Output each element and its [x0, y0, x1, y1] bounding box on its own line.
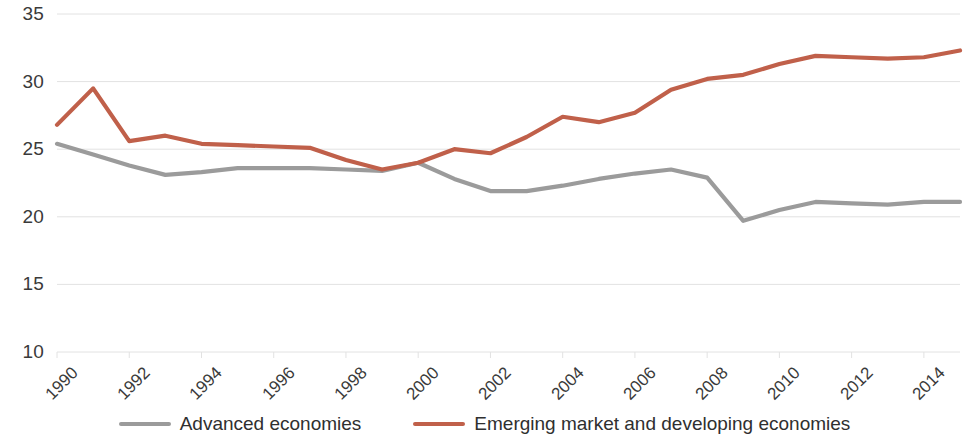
y-axis-tick-label: 10 [4, 342, 44, 361]
line-chart: 101520253035 199019921994199619982000200… [0, 0, 969, 441]
legend-label: Advanced economies [180, 413, 362, 435]
chart-legend: Advanced economiesEmerging market and de… [0, 406, 969, 441]
gridlines [57, 14, 960, 352]
y-axis-tick-label: 20 [4, 207, 44, 226]
y-axis-tick-label: 35 [4, 4, 44, 23]
series-line [57, 51, 960, 170]
legend-item[interactable]: Advanced economies [119, 413, 362, 435]
x-axis-ticks [57, 352, 924, 358]
legend-line-swatch [119, 422, 171, 426]
y-axis-tick-label: 25 [4, 139, 44, 158]
y-axis-labels: 101520253035 [0, 0, 44, 441]
legend-line-swatch [413, 422, 465, 426]
chart-canvas [0, 0, 969, 441]
series-line [57, 144, 960, 221]
legend-label: Emerging market and developing economies [474, 413, 850, 435]
y-axis-tick-label: 30 [4, 72, 44, 91]
legend-item[interactable]: Emerging market and developing economies [413, 413, 850, 435]
series-lines [57, 51, 960, 221]
y-axis-tick-label: 15 [4, 274, 44, 293]
plot-area [0, 0, 969, 441]
